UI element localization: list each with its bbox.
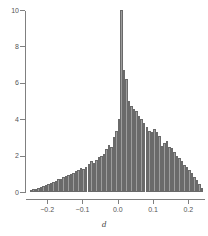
x-axis-tick bbox=[47, 199, 48, 204]
y-axis-tick bbox=[20, 119, 25, 120]
histogram-bar bbox=[201, 188, 204, 192]
x-axis-tick bbox=[118, 199, 119, 204]
histogram-bars bbox=[26, 10, 206, 192]
y-axis-tick-label: 0 bbox=[0, 189, 19, 196]
x-axis-title: d bbox=[0, 219, 208, 229]
y-axis-tick-label: 8 bbox=[0, 43, 19, 50]
y-axis-tick-label: 4 bbox=[0, 116, 19, 123]
x-axis-tick-label: −0.2 bbox=[32, 206, 62, 214]
y-axis-tick bbox=[20, 10, 25, 11]
histogram-figure: 0246810 −0.2−0.10.00.10.2 d bbox=[0, 0, 208, 236]
x-axis-tick-label: 0.1 bbox=[138, 206, 168, 214]
x-axis-tick-label: 0.2 bbox=[173, 206, 203, 214]
y-axis-tick bbox=[20, 156, 25, 157]
y-axis-tick-label: 10 bbox=[0, 7, 19, 14]
x-axis-tick bbox=[188, 199, 189, 204]
y-axis-tick bbox=[20, 46, 25, 47]
x-axis-tick bbox=[82, 199, 83, 204]
plot-area bbox=[26, 10, 206, 192]
y-axis-tick bbox=[20, 192, 25, 193]
x-axis-tick bbox=[153, 199, 154, 204]
y-axis-tick-label: 2 bbox=[0, 152, 19, 159]
y-axis-tick-label: 6 bbox=[0, 79, 19, 86]
y-axis-tick bbox=[20, 83, 25, 84]
x-axis-line bbox=[26, 199, 205, 200]
x-axis-tick-label: −0.1 bbox=[67, 206, 97, 214]
x-axis-tick-label: 0.0 bbox=[103, 206, 133, 214]
y-axis-line bbox=[25, 11, 26, 193]
